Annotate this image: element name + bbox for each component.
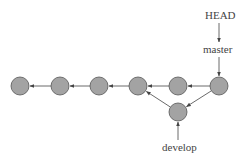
edge-d1-to-c4 [146, 91, 170, 107]
commit-node-c5 [169, 77, 187, 95]
graph-svg [0, 0, 243, 163]
commit-node-c3 [90, 77, 108, 95]
commit-node-c6 [210, 77, 228, 95]
head-label: HEAD [205, 9, 236, 21]
edge-c6-to-d1 [186, 91, 211, 107]
git-branch-diagram: HEAD master develop [0, 0, 243, 163]
commit-nodes [11, 77, 228, 121]
commit-node-d1 [169, 103, 187, 121]
commit-node-c2 [51, 77, 69, 95]
develop-branch-label: develop [162, 141, 197, 153]
commit-node-c1 [11, 77, 29, 95]
commit-node-c4 [129, 77, 147, 95]
master-branch-label: master [203, 43, 232, 55]
